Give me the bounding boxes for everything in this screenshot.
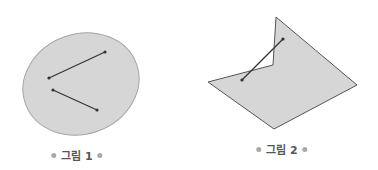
concave-polygon-region (208, 17, 357, 129)
caption-text: 그림 1 (61, 147, 92, 163)
bullet-dot-icon (98, 153, 103, 158)
bullet-dot-icon (51, 153, 56, 158)
figure-1 (8, 17, 153, 151)
figure-1-caption: 그림 1 (51, 147, 102, 163)
convex-ellipse-region (8, 17, 153, 151)
figure-2 (208, 17, 357, 129)
segment-2-endpoint (51, 88, 54, 91)
segment-1-endpoint (103, 50, 106, 53)
segment-1-endpoint (47, 76, 50, 79)
segment-3-endpoint (281, 37, 284, 40)
bullet-dot-icon (303, 147, 308, 152)
caption-text: 그림 2 (266, 141, 297, 157)
segment-2-endpoint (95, 108, 98, 111)
bullet-dot-icon (256, 147, 261, 152)
segment-3-endpoint (240, 78, 243, 81)
figure-2-caption: 그림 2 (256, 141, 307, 157)
figures-canvas (0, 0, 378, 170)
